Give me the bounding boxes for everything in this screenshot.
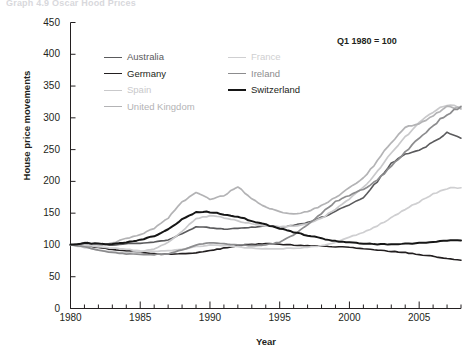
axis-lines — [71, 23, 462, 309]
series-line-spain — [71, 105, 462, 253]
series-line-australia — [71, 132, 462, 245]
series-line-switzerland — [71, 212, 462, 245]
series-line-ireland — [71, 106, 462, 254]
chart-root: Graph 4.9 Oscar Hood Prices House price … — [0, 0, 469, 361]
plot-svg — [0, 0, 469, 361]
